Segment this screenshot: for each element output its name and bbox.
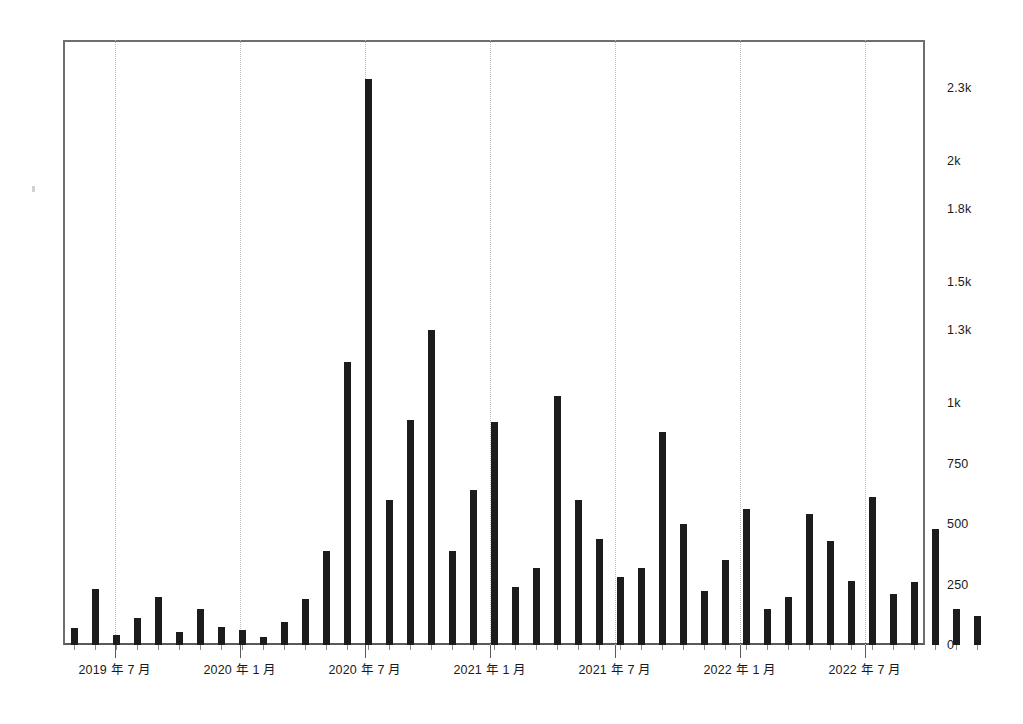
y-axis-tick-label: 0 bbox=[947, 638, 954, 652]
bar[interactable] bbox=[701, 591, 708, 645]
x-axis-tick-label: 2022 年 7 月 bbox=[828, 659, 901, 678]
x-axis-minor-tick bbox=[914, 645, 915, 650]
y-axis-tick-label: 2k bbox=[947, 154, 961, 168]
bar[interactable] bbox=[764, 609, 771, 645]
bar[interactable] bbox=[785, 597, 792, 645]
bar[interactable] bbox=[722, 560, 729, 645]
x-axis-major-tick bbox=[615, 645, 616, 658]
bar[interactable] bbox=[281, 622, 288, 645]
bar[interactable] bbox=[869, 497, 876, 645]
y-axis-tick-label: 1.8k bbox=[947, 202, 971, 216]
x-axis-minor-tick bbox=[200, 645, 201, 650]
bar[interactable] bbox=[491, 422, 498, 645]
x-axis-minor-tick bbox=[893, 645, 894, 650]
y-axis-tick-label: 750 bbox=[947, 457, 968, 471]
x-axis-minor-tick bbox=[767, 645, 768, 650]
x-axis-minor-tick bbox=[662, 645, 663, 650]
bar[interactable] bbox=[533, 568, 540, 645]
x-axis-minor-tick bbox=[620, 645, 621, 650]
x-axis-minor-tick bbox=[557, 645, 558, 650]
x-axis-minor-tick bbox=[473, 645, 474, 650]
gridline bbox=[115, 40, 116, 645]
bar[interactable] bbox=[449, 551, 456, 645]
x-axis-tick-label: 2022 年 1 月 bbox=[703, 659, 776, 678]
x-axis-major-tick bbox=[740, 645, 741, 658]
bar-chart: 2019 年 7 月2020 年 1 月2020 年 7 月2021 年 1 月… bbox=[0, 0, 1023, 724]
bar[interactable] bbox=[680, 524, 687, 645]
x-axis-minor-tick bbox=[347, 645, 348, 650]
x-axis-minor-tick bbox=[746, 645, 747, 650]
bar[interactable] bbox=[470, 490, 477, 645]
x-axis-major-tick bbox=[865, 645, 866, 658]
x-axis-tick-label: 2020 年 1 月 bbox=[203, 659, 276, 678]
bar[interactable] bbox=[155, 597, 162, 645]
bar[interactable] bbox=[848, 581, 855, 645]
bar[interactable] bbox=[176, 632, 183, 645]
bar[interactable] bbox=[260, 637, 267, 645]
bar[interactable] bbox=[92, 589, 99, 645]
image-artifact-speck bbox=[32, 186, 35, 192]
x-axis-minor-tick bbox=[851, 645, 852, 650]
bar[interactable] bbox=[974, 616, 981, 645]
y-axis-tick-label: 1.3k bbox=[947, 323, 971, 337]
bar[interactable] bbox=[554, 396, 561, 645]
x-axis-minor-tick bbox=[305, 645, 306, 650]
bar[interactable] bbox=[71, 628, 78, 645]
bar[interactable] bbox=[659, 432, 666, 645]
x-axis-major-tick bbox=[365, 645, 366, 658]
bar[interactable] bbox=[806, 514, 813, 645]
bar[interactable] bbox=[386, 500, 393, 645]
x-axis-minor-tick bbox=[95, 645, 96, 650]
bar[interactable] bbox=[890, 594, 897, 645]
x-axis-minor-tick bbox=[830, 645, 831, 650]
bar[interactable] bbox=[596, 539, 603, 645]
x-axis-minor-tick bbox=[956, 645, 957, 650]
y-axis-tick-label: 500 bbox=[947, 517, 968, 531]
gridline bbox=[740, 40, 741, 645]
y-axis-tick-label: 1.5k bbox=[947, 275, 971, 289]
x-axis-tick-label: 2021 年 1 月 bbox=[453, 659, 526, 678]
x-axis-minor-tick bbox=[536, 645, 537, 650]
x-axis-minor-tick bbox=[452, 645, 453, 650]
bar[interactable] bbox=[302, 599, 309, 645]
x-axis-minor-tick bbox=[221, 645, 222, 650]
bar[interactable] bbox=[575, 500, 582, 645]
x-axis-minor-tick bbox=[74, 645, 75, 650]
x-axis-minor-tick bbox=[242, 645, 243, 650]
x-axis-minor-tick bbox=[599, 645, 600, 650]
bar[interactable] bbox=[617, 577, 624, 645]
x-axis-major-tick bbox=[115, 645, 116, 658]
x-axis-minor-tick bbox=[431, 645, 432, 650]
x-axis-minor-tick bbox=[137, 645, 138, 650]
bar[interactable] bbox=[743, 509, 750, 645]
x-axis-minor-tick bbox=[641, 645, 642, 650]
x-axis-minor-tick bbox=[704, 645, 705, 650]
bar[interactable] bbox=[428, 330, 435, 645]
bar[interactable] bbox=[323, 551, 330, 645]
bar[interactable] bbox=[134, 618, 141, 645]
x-axis-minor-tick bbox=[158, 645, 159, 650]
gridline bbox=[615, 40, 616, 645]
x-axis-major-tick bbox=[490, 645, 491, 658]
x-axis-minor-tick bbox=[788, 645, 789, 650]
x-axis-tick-label: 2019 年 7 月 bbox=[78, 659, 151, 678]
bar[interactable] bbox=[197, 609, 204, 645]
bar[interactable] bbox=[407, 420, 414, 645]
x-axis-minor-tick bbox=[263, 645, 264, 650]
x-axis-major-tick bbox=[240, 645, 241, 658]
bar[interactable] bbox=[512, 587, 519, 645]
bar[interactable] bbox=[239, 630, 246, 645]
x-axis-tick-label: 2020 年 7 月 bbox=[328, 659, 401, 678]
bar[interactable] bbox=[218, 627, 225, 645]
bar[interactable] bbox=[932, 529, 939, 645]
y-axis-tick-label: 1k bbox=[947, 396, 961, 410]
bar[interactable] bbox=[827, 541, 834, 645]
bar[interactable] bbox=[344, 362, 351, 645]
bar[interactable] bbox=[911, 582, 918, 645]
x-axis-minor-tick bbox=[326, 645, 327, 650]
x-axis-minor-tick bbox=[410, 645, 411, 650]
bar[interactable] bbox=[113, 635, 120, 645]
bar[interactable] bbox=[365, 79, 372, 645]
x-axis-minor-tick bbox=[935, 645, 936, 650]
bar[interactable] bbox=[638, 568, 645, 645]
